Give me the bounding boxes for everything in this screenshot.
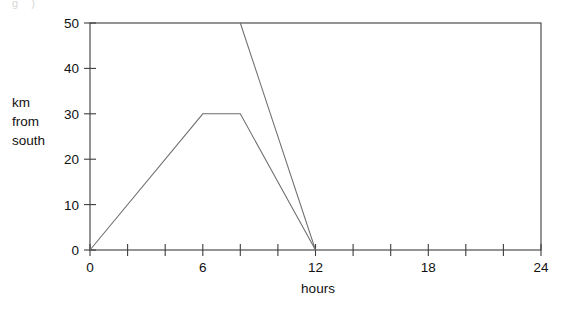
y-tick-label: 20 [64, 152, 79, 167]
chart-figure: g ) 0 10 20 30 40 50 [0, 0, 562, 312]
y-tick-label: 50 [64, 16, 79, 31]
y-tick-label: 0 [71, 243, 79, 258]
x-tick-label: 12 [308, 260, 323, 275]
y-axis-title-line-2: from [12, 112, 70, 131]
y-tick-label: 40 [64, 61, 79, 76]
y-tick-label: 10 [64, 198, 79, 213]
x-tick-label: 6 [199, 260, 207, 275]
x-tick-label: 24 [533, 260, 549, 275]
x-tick-label: 0 [86, 260, 94, 275]
series-outbound-and-return [90, 114, 316, 250]
x-axis-title: hours [268, 281, 368, 296]
y-axis-title: km from south [12, 93, 70, 150]
y-axis-title-line-3: south [12, 131, 70, 150]
series-steep-descent [240, 23, 315, 250]
y-axis-title-line-1: km [12, 93, 70, 112]
x-axis-tick-labels: 0 6 12 18 24 [86, 260, 549, 275]
x-tick-label: 18 [421, 260, 436, 275]
chart-plot-area: 0 10 20 30 40 50 0 6 12 [0, 0, 562, 312]
plot-frame [90, 23, 541, 250]
